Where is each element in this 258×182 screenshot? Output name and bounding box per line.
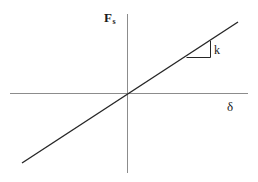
slope-label: k [214,44,220,56]
x-axis-label: δ [227,100,233,113]
spring-force-line [22,22,238,163]
y-axis-label-subscript: s [112,17,115,26]
y-axis-label: Fs [104,11,116,26]
y-axis-label-symbol: F [104,10,112,25]
spring-force-deflection-figure: Fs δ k [0,0,258,182]
plot-canvas [0,0,258,182]
